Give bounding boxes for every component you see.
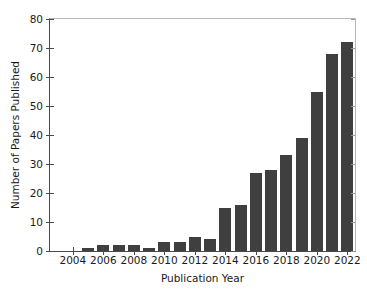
- x-axis-label: Publication Year: [49, 272, 356, 284]
- y-tick-label-40: 40: [30, 129, 43, 142]
- bar-2009: [143, 248, 155, 251]
- y-tick-inner-70: [50, 48, 54, 49]
- x-tick-inner-2004: [73, 247, 74, 251]
- bar-2013: [204, 239, 216, 251]
- bar-2019: [296, 138, 308, 251]
- x-tick-label-2008: 2008: [121, 254, 148, 267]
- y-axis-label: Number of Papers Published: [9, 18, 23, 252]
- x-tick-inner-2010: [164, 247, 165, 251]
- y-tick-inner-30: [50, 164, 54, 165]
- y-tick-inner-0: [50, 251, 54, 252]
- x-tick-label-2006: 2006: [90, 254, 117, 267]
- bar-2005: [82, 248, 94, 251]
- y-tick-inner-50: [50, 106, 54, 107]
- x-tick-inner-2020: [317, 247, 318, 251]
- y-tick-label-50: 50: [30, 100, 43, 113]
- y-tick-right-80: [351, 19, 355, 20]
- y-tick-right-50: [351, 106, 355, 107]
- y-tick-label-20: 20: [30, 187, 43, 200]
- x-tick-label-2022: 2022: [334, 254, 361, 267]
- x-tick-inner-2022: [347, 247, 348, 251]
- x-tick-label-2012: 2012: [182, 254, 209, 267]
- bar-chart-figure: Number of Papers Published 0102030405060…: [0, 0, 367, 302]
- x-tick-label-2016: 2016: [243, 254, 270, 267]
- x-tick-inner-2012: [195, 247, 196, 251]
- bar-2014: [219, 208, 231, 252]
- x-tick-label-2020: 2020: [304, 254, 331, 267]
- y-tick-right-40: [351, 135, 355, 136]
- y-tick-label-10: 10: [30, 216, 43, 229]
- y-tick-label-60: 60: [30, 71, 43, 84]
- y-tick-right-30: [351, 164, 355, 165]
- y-tick-label-0: 0: [36, 245, 43, 258]
- plot-area: 01020304050607080 2004200620082010201220…: [49, 18, 356, 252]
- y-tick-label-80: 80: [30, 13, 43, 26]
- y-tick-inner-20: [50, 193, 54, 194]
- y-tick-right-10: [351, 222, 355, 223]
- y-tick-label-70: 70: [30, 42, 43, 55]
- bar-2016: [250, 173, 262, 251]
- x-tick-label-2004: 2004: [60, 254, 87, 267]
- bar-2022: [341, 42, 353, 251]
- y-tick-inner-40: [50, 135, 54, 136]
- x-tick-inner-2018: [286, 247, 287, 251]
- x-tick-label-2018: 2018: [273, 254, 300, 267]
- x-tick-inner-2016: [256, 247, 257, 251]
- bar-2007: [113, 245, 125, 251]
- bar-series: [50, 19, 355, 251]
- y-tick-right-70: [351, 48, 355, 49]
- x-tick-inner-2014: [225, 247, 226, 251]
- y-tick-inner-10: [50, 222, 54, 223]
- y-tick-right-0: [351, 251, 355, 252]
- x-tick-label-2010: 2010: [151, 254, 178, 267]
- y-tick-right-60: [351, 77, 355, 78]
- y-tick-right-20: [351, 193, 355, 194]
- bar-2020: [311, 92, 323, 252]
- y-tick-inner-80: [50, 19, 54, 20]
- x-tick-inner-2006: [103, 247, 104, 251]
- bar-2015: [235, 205, 247, 251]
- bar-2018: [280, 155, 292, 251]
- x-tick-inner-2008: [134, 247, 135, 251]
- bar-2017: [265, 170, 277, 251]
- bar-2021: [326, 54, 338, 251]
- y-tick-label-30: 30: [30, 158, 43, 171]
- y-tick-inner-60: [50, 77, 54, 78]
- bar-2011: [174, 242, 186, 251]
- x-tick-label-2014: 2014: [212, 254, 239, 267]
